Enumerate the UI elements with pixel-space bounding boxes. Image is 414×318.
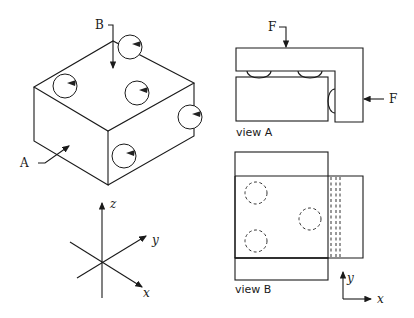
- hidden-ball-3: [299, 208, 321, 230]
- label-a: A: [19, 156, 29, 170]
- axes-3d: z y x: [70, 197, 159, 300]
- view-b-y-label: y: [346, 271, 354, 285]
- z-axis-label: z: [109, 197, 117, 211]
- force-top-arrow: [279, 27, 286, 47]
- diagram-canvas: B A z y x F F view A: [0, 0, 414, 318]
- force-side-label: F: [389, 92, 397, 106]
- x-axis-label: x: [143, 286, 150, 300]
- hidden-ball-2: [245, 230, 267, 252]
- ball-top-left: [53, 74, 77, 98]
- block-right-face: [108, 83, 194, 185]
- label-b: B: [95, 18, 104, 32]
- view-b-caption: view B: [235, 283, 271, 296]
- view-b-x-label: x: [377, 292, 384, 306]
- view-a-arrow: A: [19, 146, 69, 170]
- ball-right-side: [178, 105, 202, 129]
- hidden-ball-1: [245, 182, 267, 204]
- y-axis-label: y: [151, 233, 159, 247]
- x-axis: [70, 242, 142, 287]
- side-part-outline: [328, 176, 363, 258]
- view-a: F F view A: [236, 20, 397, 139]
- ball-section-3: [328, 89, 335, 113]
- ball-front-side: [112, 144, 136, 168]
- force-top-label: F: [268, 20, 276, 34]
- ball-top-back: [118, 35, 142, 59]
- l-bracket: [236, 48, 363, 122]
- view-b: view B y x: [235, 152, 384, 306]
- y-axis: [77, 236, 146, 278]
- lower-part-outline: [235, 258, 328, 280]
- lower-block: [236, 77, 328, 121]
- upper-part-outline: [235, 152, 328, 258]
- ball-top-center: [125, 81, 149, 105]
- view-a-caption: view A: [236, 126, 273, 139]
- block-left-face: [34, 87, 108, 185]
